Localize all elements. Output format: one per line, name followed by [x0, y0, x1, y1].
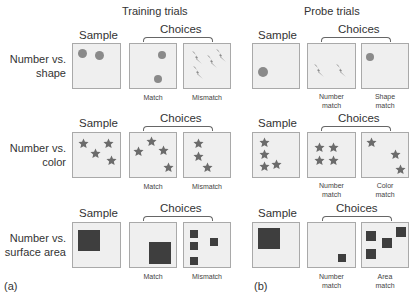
training-match-panel	[129, 132, 177, 178]
lightning-bolt-icon	[193, 66, 203, 79]
probe-number-match-panel	[307, 43, 356, 89]
star-icon	[390, 149, 401, 160]
training-match-panel	[129, 43, 177, 89]
area-match-caption: Area match	[361, 272, 409, 290]
square-icon	[396, 227, 406, 237]
square-icon	[366, 249, 376, 259]
probe-shape-match-panel	[361, 43, 409, 89]
probe-sample-panel	[252, 222, 300, 268]
sample-header: Sample	[79, 207, 118, 219]
choices-bracket	[143, 126, 213, 131]
star-icon	[259, 161, 270, 172]
training-sample-panel	[72, 132, 121, 178]
star-icon	[328, 155, 339, 166]
square-icon	[338, 254, 346, 262]
training-match-panel	[129, 222, 177, 268]
square-icon	[190, 242, 198, 250]
square-icon	[190, 257, 198, 265]
caption-line1: Number	[307, 272, 356, 281]
sample-header: Sample	[79, 117, 118, 129]
choices-header: Choices	[160, 202, 202, 214]
choices-header: Choices	[338, 23, 380, 35]
mismatch-caption: Mismatch	[183, 272, 231, 281]
star-icon	[193, 138, 204, 149]
caption-line2: match	[361, 190, 409, 199]
star-icon	[259, 149, 270, 160]
mismatch-caption: Mismatch	[183, 182, 231, 191]
square-icon	[149, 242, 171, 264]
caption-line2: match	[307, 281, 356, 290]
sample-header: Sample	[258, 207, 297, 219]
star-icon	[78, 138, 89, 149]
circle-icon	[154, 75, 162, 83]
lightning-bolt-icon	[336, 64, 346, 77]
circle-icon	[366, 53, 374, 61]
caption-line2: match	[307, 190, 356, 199]
star-icon	[314, 155, 325, 166]
training-trials-title: Training trials	[122, 5, 188, 17]
square-icon	[190, 230, 198, 238]
star-icon	[106, 155, 117, 166]
star-icon	[328, 142, 339, 153]
square-icon	[210, 238, 218, 246]
sample-header: Sample	[258, 29, 297, 41]
probe-number-match-panel	[307, 132, 356, 178]
lightning-bolt-icon	[216, 49, 226, 62]
mismatch-caption: Mismatch	[183, 93, 231, 102]
star-icon	[158, 145, 169, 156]
row-label: Number vs. color	[0, 141, 66, 169]
caption-line1: Number	[307, 92, 356, 101]
row-label-line1: Number vs.	[0, 141, 66, 155]
training-sample-panel	[72, 43, 121, 89]
choices-header: Choices	[338, 112, 380, 124]
star-icon	[202, 162, 213, 173]
number-match-caption: Number match	[307, 272, 356, 290]
caption-line1: Shape	[361, 92, 409, 101]
caption-line1: Area	[361, 272, 409, 281]
star-icon	[133, 146, 144, 157]
probe-number-match-panel	[307, 222, 356, 268]
row-label-line2: color	[0, 155, 66, 169]
circle-icon	[95, 51, 104, 60]
square-icon	[78, 230, 100, 251]
star-icon	[271, 159, 282, 170]
caption-line2: match	[361, 281, 409, 290]
lightning-bolt-icon	[314, 64, 324, 77]
row-label-line2: shape	[0, 66, 66, 80]
star-icon	[366, 137, 377, 148]
shape-match-caption: Shape match	[361, 92, 409, 110]
training-sample-panel	[72, 222, 121, 268]
choices-bracket	[321, 126, 391, 131]
row-label-line1: Number vs.	[0, 231, 66, 245]
square-icon	[258, 228, 280, 249]
square-icon	[382, 238, 392, 248]
choices-header: Choices	[160, 112, 202, 124]
choices-header: Choices	[336, 202, 378, 214]
star-icon	[395, 164, 406, 175]
sample-header: Sample	[258, 117, 297, 129]
sample-header: Sample	[79, 29, 118, 41]
choices-bracket	[322, 216, 392, 221]
number-match-caption: Number match	[307, 92, 356, 110]
lightning-bolt-icon	[192, 51, 202, 64]
caption-line1: Number	[307, 181, 356, 190]
star-icon	[193, 151, 204, 162]
color-match-caption: Color match	[361, 181, 409, 199]
probe-area-match-panel	[361, 222, 409, 268]
choices-bracket	[321, 37, 391, 42]
choices-bracket	[143, 216, 213, 221]
row-label: Number vs. shape	[0, 52, 66, 80]
star-icon	[163, 162, 174, 173]
match-caption: Match	[129, 182, 177, 191]
circle-icon	[258, 67, 268, 77]
probe-color-match-panel	[361, 132, 409, 178]
probe-sample-panel	[252, 132, 300, 178]
match-caption: Match	[129, 272, 177, 281]
star-icon	[103, 138, 114, 149]
panel-label-a: (a)	[4, 280, 17, 292]
caption-line1: Color	[361, 181, 409, 190]
star-icon	[314, 142, 325, 153]
panel-label-b: (b)	[254, 280, 267, 292]
match-caption: Match	[129, 93, 177, 102]
star-icon	[90, 148, 101, 159]
